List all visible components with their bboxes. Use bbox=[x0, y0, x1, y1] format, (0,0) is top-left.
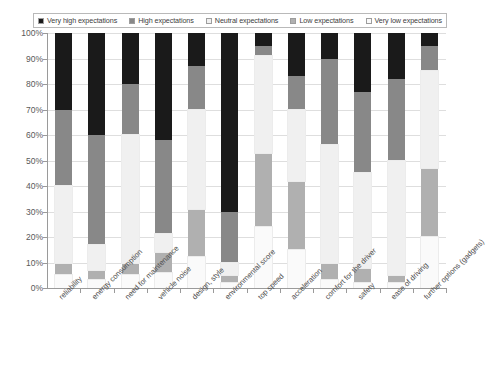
y-axis: 100%90%80%70%60%50%40%30%20%10%0% bbox=[0, 33, 43, 288]
legend-item-label: Low expectations bbox=[299, 16, 353, 25]
bar-stack[interactable] bbox=[321, 33, 338, 288]
bar-segment bbox=[388, 33, 405, 79]
bar-segment bbox=[388, 161, 405, 276]
bar-segment bbox=[55, 110, 72, 187]
legend-swatch-icon bbox=[206, 18, 212, 24]
y-axis-tick-label: 60% bbox=[26, 131, 43, 140]
bar-segment bbox=[288, 76, 305, 109]
bar-segment bbox=[188, 66, 205, 109]
y-axis-tick-label: 70% bbox=[26, 105, 43, 114]
gridline bbox=[47, 84, 446, 85]
bar-segment bbox=[55, 186, 72, 263]
bar-segment bbox=[421, 33, 438, 46]
bar-stack[interactable] bbox=[221, 33, 238, 288]
x-axis-tick-mark bbox=[180, 289, 181, 293]
bar-segment bbox=[421, 46, 438, 72]
y-axis-tick-label: 80% bbox=[26, 80, 43, 89]
gridline bbox=[47, 33, 446, 34]
legend-swatch-icon bbox=[290, 18, 296, 24]
x-axis-tick-mark bbox=[114, 289, 115, 293]
legend-swatch-icon bbox=[129, 18, 135, 24]
bar-segment bbox=[255, 46, 272, 56]
legend-item-label: Very high expectations bbox=[47, 16, 117, 25]
legend-swatch-icon bbox=[366, 18, 372, 24]
y-axis-tick-label: 30% bbox=[26, 207, 43, 216]
legend-swatch-icon bbox=[38, 18, 44, 24]
plot-area bbox=[47, 33, 446, 288]
bar-segment bbox=[388, 79, 405, 161]
legend-item[interactable]: Very low expectations bbox=[366, 16, 442, 25]
bar-segment bbox=[321, 263, 338, 281]
x-axis-tick-mark bbox=[380, 289, 381, 293]
bar-segment bbox=[255, 153, 272, 227]
bar-segment bbox=[122, 33, 139, 84]
x-axis-tick-mark bbox=[280, 289, 281, 293]
bar-segment bbox=[55, 263, 72, 276]
gridline bbox=[47, 186, 446, 187]
bar-segment bbox=[155, 33, 172, 140]
chart-legend: Very high expectationsHigh expectationsN… bbox=[33, 13, 447, 28]
bar-segment bbox=[88, 245, 105, 271]
bar-segment bbox=[88, 270, 105, 280]
bar-stack[interactable] bbox=[421, 33, 438, 288]
legend-item-label: Very low expectations bbox=[375, 16, 442, 25]
x-axis-labels: reliabilityenergy consumptionneed for ma… bbox=[0, 289, 456, 371]
gridline bbox=[47, 135, 446, 136]
bar-segment bbox=[321, 145, 338, 262]
bar-segment bbox=[221, 212, 238, 263]
legend-item-label: High expectations bbox=[138, 16, 193, 25]
bar-segment bbox=[255, 33, 272, 46]
bar-segment bbox=[421, 168, 438, 237]
bar-segment bbox=[88, 33, 105, 135]
legend-item[interactable]: Neutral expectations bbox=[206, 16, 279, 25]
y-axis-tick-label: 20% bbox=[26, 233, 43, 242]
gridline bbox=[47, 59, 446, 60]
bar-stack[interactable] bbox=[288, 33, 305, 288]
bar-segment bbox=[122, 135, 139, 263]
x-axis-tick-mark bbox=[446, 289, 447, 293]
x-axis-tick-mark bbox=[213, 289, 214, 293]
bar-stack[interactable] bbox=[188, 33, 205, 288]
x-axis-tick-mark bbox=[147, 289, 148, 293]
legend-item[interactable]: Very high expectations bbox=[38, 16, 117, 25]
legend-item-label: Neutral expectations bbox=[215, 16, 279, 25]
gridline bbox=[47, 263, 446, 264]
x-axis-tick-mark bbox=[247, 289, 248, 293]
bar-segment bbox=[321, 59, 338, 146]
bar-segment bbox=[255, 56, 272, 153]
legend-item[interactable]: Low expectations bbox=[290, 16, 353, 25]
bar-stack[interactable] bbox=[55, 33, 72, 288]
x-axis-tick-mark bbox=[80, 289, 81, 293]
legend-item[interactable]: High expectations bbox=[129, 16, 193, 25]
y-axis-tick-label: 90% bbox=[26, 54, 43, 63]
y-axis-tick-label: 40% bbox=[26, 182, 43, 191]
bar-segment bbox=[354, 92, 371, 174]
gridline bbox=[47, 212, 446, 213]
bar-segment bbox=[88, 135, 105, 245]
bar-segment bbox=[221, 33, 238, 212]
x-axis-tick-mark bbox=[313, 289, 314, 293]
y-axis-line bbox=[47, 33, 48, 289]
gridline bbox=[47, 161, 446, 162]
gridline bbox=[47, 237, 446, 238]
bar-segment bbox=[288, 110, 305, 181]
bar-segment bbox=[354, 33, 371, 92]
bar-segment bbox=[188, 110, 205, 209]
bar-stack[interactable] bbox=[88, 33, 105, 288]
bar-segment bbox=[288, 33, 305, 76]
bar-segment bbox=[421, 71, 438, 168]
bar-stack[interactable] bbox=[388, 33, 405, 288]
bar-segment bbox=[188, 33, 205, 66]
x-axis-tick-mark bbox=[413, 289, 414, 293]
bar-segment bbox=[122, 84, 139, 135]
bar-segment bbox=[188, 209, 205, 257]
bar-segment bbox=[155, 140, 172, 234]
bar-segment bbox=[55, 33, 72, 110]
gridline bbox=[47, 110, 446, 111]
y-axis-tick-label: 50% bbox=[26, 156, 43, 165]
bar-segment bbox=[321, 33, 338, 59]
y-axis-tick-label: 100% bbox=[21, 29, 43, 38]
y-axis-tick-label: 10% bbox=[26, 258, 43, 267]
bar-segment bbox=[288, 181, 305, 250]
